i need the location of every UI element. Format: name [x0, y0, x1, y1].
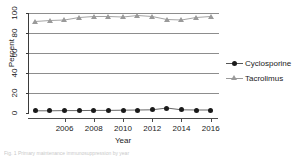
- data-point-tacrolimus: [178, 17, 184, 22]
- x-tick-label: 2006: [50, 124, 80, 134]
- legend-swatch-tacrolimus: [226, 74, 243, 83]
- y-tick-label: 80: [10, 26, 20, 40]
- x-tick-mark: [123, 118, 124, 122]
- data-point-cyclosporine: [164, 106, 169, 111]
- x-tick-mark: [94, 118, 95, 122]
- x-tick-label: 2010: [108, 124, 138, 134]
- x-tick-mark: [65, 118, 66, 122]
- series-layer: [28, 13, 218, 113]
- data-point-cyclosporine: [77, 108, 82, 113]
- data-point-tacrolimus: [208, 14, 214, 19]
- y-axis-tick-labels: 020406080100: [8, 0, 22, 120]
- x-tick-mark: [181, 118, 182, 122]
- data-point-tacrolimus: [134, 13, 140, 18]
- data-point-cyclosporine: [135, 108, 140, 113]
- x-axis-title: Year: [0, 136, 246, 145]
- data-point-tacrolimus: [149, 14, 155, 19]
- legend-swatch-cyclosporine: [226, 59, 243, 68]
- data-point-tacrolimus: [61, 17, 67, 22]
- data-point-tacrolimus: [47, 18, 53, 23]
- x-tick-label: 2012: [137, 124, 167, 134]
- x-tick-mark: [152, 118, 153, 122]
- chart-legend: Cyclosporine Tacrolimus: [226, 56, 293, 86]
- x-tick-label: 2008: [79, 124, 109, 134]
- y-tick-mark: [26, 113, 29, 114]
- data-point-cyclosporine: [121, 108, 126, 113]
- y-tick-label: 100: [10, 6, 20, 20]
- x-tick-mark: [211, 118, 212, 122]
- y-tick-label: 60: [10, 46, 20, 60]
- data-point-tacrolimus: [105, 14, 111, 19]
- y-tick-label: 40: [10, 66, 20, 80]
- chart-figure: Percent 020406080100 2006200820102012201…: [0, 0, 293, 158]
- y-tick-label: 0: [10, 106, 20, 120]
- data-point-tacrolimus: [91, 14, 97, 19]
- data-point-tacrolimus: [76, 15, 82, 20]
- legend-label-cyclosporine: Cyclosporine: [245, 59, 291, 68]
- figure-caption: Fig. 1 Primary maintenance immunosuppres…: [4, 150, 293, 156]
- data-point-tacrolimus: [193, 15, 199, 20]
- data-point-tacrolimus: [164, 17, 170, 22]
- data-point-cyclosporine: [194, 108, 199, 113]
- circle-marker-icon: [232, 61, 237, 66]
- x-tick-label: 2016: [196, 124, 226, 134]
- data-point-tacrolimus: [32, 19, 38, 24]
- legend-label-tacrolimus: Tacrolimus: [245, 74, 283, 83]
- data-point-cyclosporine: [208, 108, 213, 113]
- legend-item-tacrolimus[interactable]: Tacrolimus: [226, 71, 293, 86]
- triangle-marker-icon: [231, 75, 237, 80]
- legend-item-cyclosporine[interactable]: Cyclosporine: [226, 56, 293, 71]
- y-tick-label: 20: [10, 86, 20, 100]
- x-tick-label: 2014: [166, 124, 196, 134]
- series-lines: [28, 13, 218, 113]
- data-point-cyclosporine: [106, 108, 111, 113]
- data-point-tacrolimus: [120, 14, 126, 19]
